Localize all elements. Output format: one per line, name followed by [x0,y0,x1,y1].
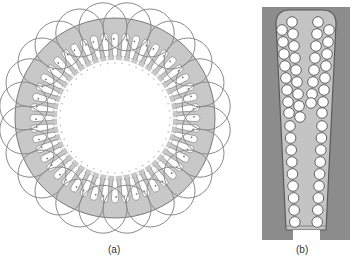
caption-b: (b) [296,244,308,255]
stator-diagram [0,0,240,240]
caption-a: (a) [108,244,120,255]
slot-cross-section-diagram [240,0,357,245]
